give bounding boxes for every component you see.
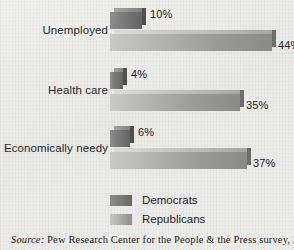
bar-face	[110, 152, 247, 169]
bar-top-bevel	[114, 90, 244, 94]
value-label-republicans-health-care: 35%	[246, 99, 268, 111]
bar-democrats-economically-needy	[110, 130, 130, 147]
bar-top-bevel	[114, 148, 251, 152]
legend-item-republicans: Republicans	[110, 213, 205, 225]
bar-end-cap	[240, 90, 244, 107]
category-label-health-care: Health care	[48, 84, 108, 96]
source-text: Pew Research Center for the People & the…	[47, 234, 294, 245]
value-label-democrats-unemployed: 10%	[150, 8, 172, 20]
legend-swatch-republicans	[110, 214, 132, 225]
bar-end-cap	[123, 68, 127, 85]
bar-face	[110, 12, 142, 29]
bar-face	[110, 34, 272, 51]
value-label-republicans-unemployed: 44%	[278, 39, 294, 51]
legend-label-democrats: Democrats	[142, 194, 198, 206]
bar-end-cap	[130, 126, 134, 143]
category-label-unemployed: Unemployed	[42, 24, 108, 36]
legend-label-republicans: Republicans	[142, 213, 205, 225]
bar-republicans-economically-needy	[110, 152, 247, 169]
bar-end-cap	[247, 148, 251, 165]
bar-top-bevel	[114, 30, 276, 34]
source-note: Source: Pew Research Center for the Peop…	[11, 234, 294, 245]
legend-item-democrats: Democrats	[110, 194, 198, 206]
value-label-democrats-economically-needy: 6%	[138, 126, 154, 138]
value-label-republicans-economically-needy: 37%	[253, 157, 275, 169]
bar-end-cap	[272, 30, 276, 47]
category-label-economically-needy: Economically needy	[4, 142, 108, 154]
bar-chart-plot-area: Unemployed 10% 44% Health care 4% 35% Ec…	[0, 0, 294, 250]
bar-end-cap	[142, 8, 146, 25]
bar-republicans-unemployed	[110, 34, 272, 51]
bar-democrats-health-care	[110, 72, 123, 89]
bar-face	[110, 94, 240, 111]
bar-democrats-unemployed	[110, 12, 142, 29]
legend-swatch-democrats	[110, 195, 132, 206]
source-prefix: Source:	[11, 234, 44, 245]
bar-face	[110, 130, 130, 147]
bar-republicans-health-care	[110, 94, 240, 111]
value-label-democrats-health-care: 4%	[131, 68, 147, 80]
bar-face	[110, 72, 123, 89]
